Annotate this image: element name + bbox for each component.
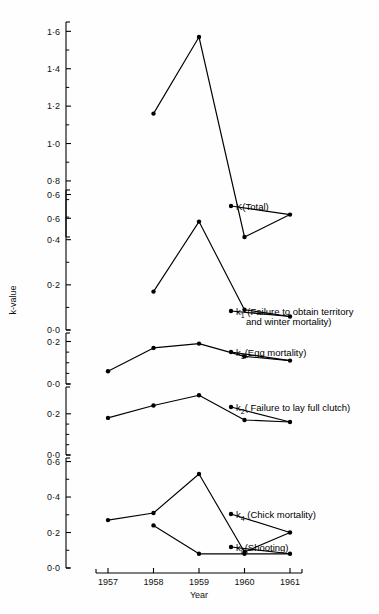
data-point xyxy=(197,341,201,345)
y-tick-label: 1·4 xyxy=(47,64,60,74)
label-anchor-dot xyxy=(229,545,233,549)
x-tick-label: 1959 xyxy=(189,577,209,587)
y-tick-label: 0·6 xyxy=(47,214,60,224)
y-tick-label: 0·2 xyxy=(47,280,60,290)
y-tick-label: 0·4 xyxy=(47,235,60,245)
data-point xyxy=(242,418,246,422)
x-axis-title: Year xyxy=(190,590,208,600)
y-tick-label: 0·0 xyxy=(47,325,60,335)
y-tick-label: 0·0 xyxy=(47,563,60,573)
y-tick-label: 0·2 xyxy=(47,528,60,538)
chart-figure: 1·61·41·21·00·80·60·60·40·20·00·20·00·20… xyxy=(0,0,379,614)
data-point xyxy=(197,219,201,223)
y-tick-label: 1·0 xyxy=(47,139,60,149)
data-point xyxy=(197,472,201,476)
data-point xyxy=(242,235,246,239)
y-tick-label: 0·8 xyxy=(47,176,60,186)
data-point xyxy=(197,393,201,397)
y-tick-label: 0·6 xyxy=(47,190,60,200)
data-point xyxy=(197,35,201,39)
data-point xyxy=(106,518,110,522)
x-tick-label: 1958 xyxy=(143,577,163,587)
label-anchor-dot xyxy=(229,204,233,208)
data-point xyxy=(151,511,155,515)
label-anchor-dot xyxy=(229,350,233,354)
data-point xyxy=(151,523,155,527)
series-line xyxy=(154,222,291,317)
label-anchor-dot xyxy=(229,405,233,409)
x-tick-label: 1961 xyxy=(280,577,300,587)
x-tick-label: 1960 xyxy=(234,577,254,587)
y-tick-label: 0·2 xyxy=(47,409,60,419)
data-point xyxy=(151,403,155,407)
series-line xyxy=(154,37,291,237)
multi-panel-line-chart: 1·61·41·21·00·80·60·60·40·20·00·20·00·20… xyxy=(0,0,379,614)
x-tick-label: 1957 xyxy=(98,577,118,587)
y-tick-label: 1·2 xyxy=(47,101,60,111)
label-anchor-dot xyxy=(229,512,233,516)
data-point xyxy=(106,416,110,420)
y-tick-label: 0·2 xyxy=(47,337,60,347)
label-anchor-dot xyxy=(229,309,233,313)
data-point xyxy=(151,346,155,350)
data-point xyxy=(151,289,155,293)
y-tick-label: 0·6 xyxy=(47,457,60,467)
series-label: K(Total) xyxy=(236,201,269,212)
data-point xyxy=(106,369,110,373)
data-point xyxy=(197,552,201,556)
y-tick-label: 0·4 xyxy=(47,492,60,502)
series-label-line2: and winter mortality) xyxy=(246,316,332,327)
y-tick-label: 1·6 xyxy=(47,27,60,37)
y-axis-title: k-value xyxy=(8,285,18,314)
data-point xyxy=(151,111,155,115)
y-tick-label: 0·0 xyxy=(47,379,60,389)
